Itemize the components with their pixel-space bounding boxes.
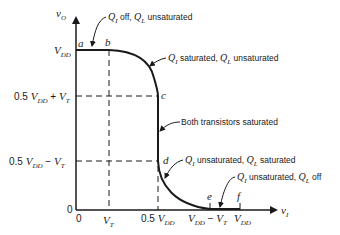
annotation-ql-saturated: QI unsaturated, QL saturated bbox=[185, 154, 296, 168]
point-a: a bbox=[78, 37, 84, 49]
y-tick-half-minus: 0.5 VDD − VT bbox=[9, 155, 66, 170]
point-b: b bbox=[105, 36, 111, 48]
y-tick-vdd: VDD bbox=[54, 44, 71, 59]
x-tick-vdd-minus-vt: VDD − VT bbox=[188, 212, 228, 227]
transfer-characteristic-diagram: vO vI VDD 0.5 VDD + VT 0.5 VDD − VT 0 0 … bbox=[0, 0, 340, 235]
y-tick-half-plus: 0.5 VDD + VT bbox=[14, 90, 71, 105]
annotation-q1-saturated: QI saturated, QL unsaturated bbox=[168, 52, 279, 66]
x-axis-label: vI bbox=[281, 204, 289, 219]
dashed-guides bbox=[76, 50, 158, 210]
point-c: c bbox=[161, 89, 166, 101]
y-tick-zero: 0 bbox=[67, 204, 73, 215]
annotation-both-saturated: Both transistors saturated bbox=[181, 117, 278, 127]
x-tick-zero: 0 bbox=[76, 213, 82, 224]
annotation-arrows bbox=[92, 17, 235, 207]
x-tick-vt: VT bbox=[103, 214, 115, 229]
x-tick-half-vdd: 0.5 VDD bbox=[141, 212, 175, 227]
annotation-ql-off: QI unsaturated, QL off bbox=[237, 171, 322, 185]
point-d: d bbox=[163, 154, 169, 166]
x-tick-vdd: VDD bbox=[234, 212, 251, 227]
point-e: e bbox=[207, 190, 212, 202]
point-f: f bbox=[237, 190, 242, 202]
y-axis-label: vO bbox=[56, 7, 66, 22]
transfer-curve bbox=[76, 50, 240, 209]
annotation-q1-off: QI off, QL unsaturated bbox=[108, 11, 193, 25]
